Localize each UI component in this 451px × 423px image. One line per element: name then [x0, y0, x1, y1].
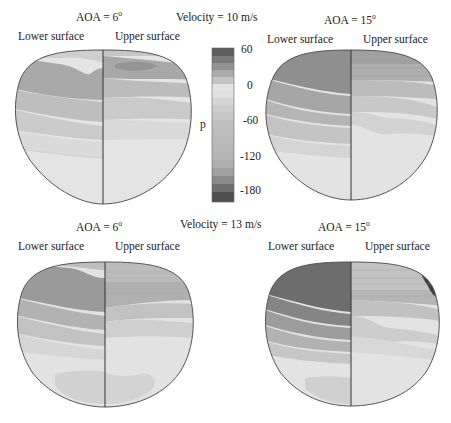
- contour-panel-v10-aoa15: [250, 40, 450, 210]
- colorbar: [212, 48, 234, 202]
- contour-panel-v13-aoa15: [250, 255, 450, 415]
- contour-figure: [0, 0, 451, 423]
